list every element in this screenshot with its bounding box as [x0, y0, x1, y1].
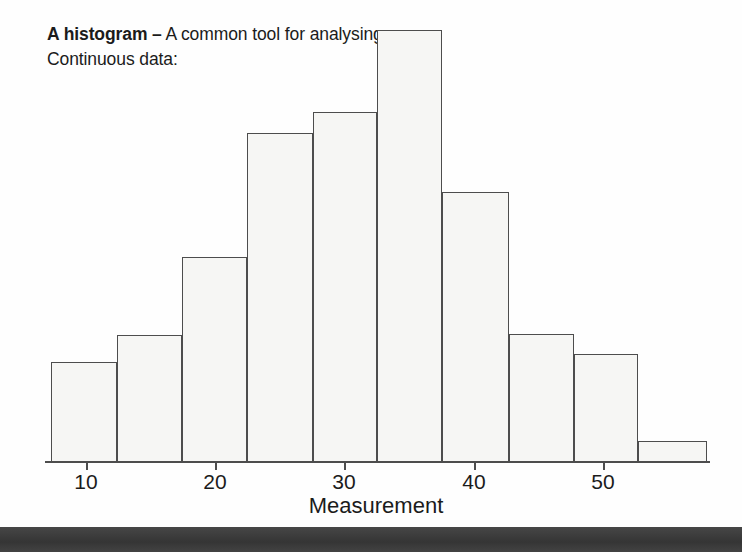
histogram-bar [377, 30, 442, 463]
x-axis-title-text: Measurement [309, 493, 444, 519]
page-footer-band [0, 527, 742, 552]
histogram-bar [574, 354, 638, 463]
x-axis-tick [603, 462, 605, 470]
histogram-bar [117, 335, 182, 463]
x-axis-line [45, 461, 710, 463]
x-axis-tick [474, 462, 476, 470]
x-axis-tick-label: 40 [444, 470, 504, 494]
histogram-bar [313, 112, 377, 463]
x-axis-tick [215, 462, 217, 470]
histogram-bar [182, 257, 247, 463]
x-axis-tick-label: 30 [314, 470, 374, 494]
histogram-bar [638, 441, 707, 463]
histogram-chart: 1020304050 Measurement [0, 0, 742, 552]
histogram-bar [247, 133, 313, 463]
histogram-bar [509, 334, 574, 463]
x-axis-tick-label: 50 [573, 470, 633, 494]
histogram-bar [442, 192, 509, 463]
x-axis-tick [86, 462, 88, 470]
x-axis-tick-label: 10 [56, 470, 116, 494]
histogram-bar [51, 362, 117, 463]
page-canvas: A histogram – A common tool for analysin… [0, 0, 742, 552]
x-axis-tick [344, 462, 346, 470]
x-axis-title: Measurement [0, 493, 742, 519]
x-axis-tick-label: 20 [185, 470, 245, 494]
